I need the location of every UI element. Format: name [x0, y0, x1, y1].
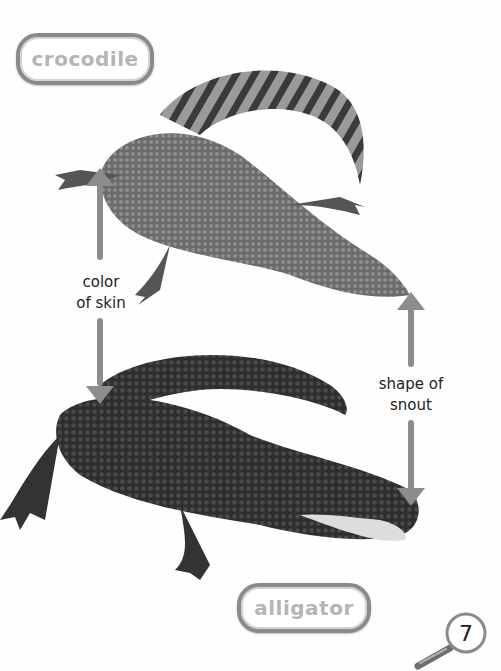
skin-caption-line-2: of skin — [66, 293, 136, 314]
snout-caption-line-2: snout — [375, 395, 447, 416]
page-number: 7 — [449, 616, 483, 650]
skin-caption-line-1: color — [66, 272, 136, 293]
snout-caption-line-1: shape of — [375, 374, 447, 395]
snout-caption: shape of snout — [375, 374, 447, 416]
book-page: crocodile alligator color of skin shape … — [0, 0, 501, 671]
skin-arrows — [0, 0, 501, 671]
skin-caption: color of skin — [66, 272, 136, 314]
